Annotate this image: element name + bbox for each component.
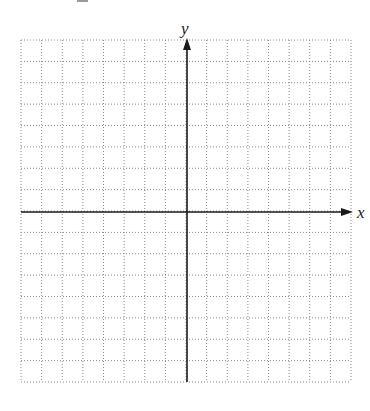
- axes: x y: [21, 19, 365, 382]
- dotted-grid: [21, 40, 351, 382]
- y-axis-label: y: [179, 19, 189, 38]
- x-axis-label: x: [356, 203, 365, 222]
- coordinate-plane: x y: [0, 0, 370, 411]
